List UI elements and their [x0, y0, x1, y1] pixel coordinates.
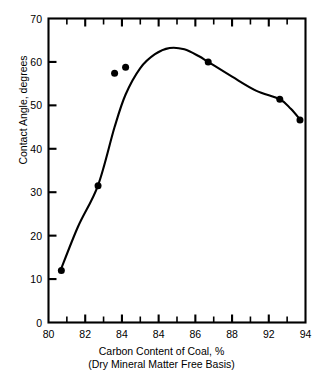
- data-point: [122, 64, 129, 71]
- y-tick-label: 50: [18, 99, 42, 111]
- x-axis-ticks: [67, 19, 287, 323]
- y-tick-label: 10: [18, 273, 42, 285]
- data-point: [111, 70, 118, 77]
- y-tick-label: 20: [18, 230, 42, 242]
- data-point: [296, 117, 303, 124]
- x-tick-label: 84: [116, 328, 128, 340]
- data-curve: [60, 48, 301, 272]
- data-point-markers: [58, 58, 304, 273]
- x-tick-label: 94: [300, 328, 312, 340]
- data-point: [205, 58, 212, 65]
- data-point: [276, 96, 283, 103]
- y-tick-label: 70: [18, 13, 42, 25]
- axis-frame: [49, 19, 306, 323]
- x-tick-label: 88: [226, 328, 238, 340]
- x-tick-label: 82: [79, 328, 91, 340]
- x-tick-label: 80: [43, 328, 55, 340]
- data-point: [58, 267, 65, 274]
- y-axis-ticks: [49, 62, 57, 279]
- x-tick-label: 92: [263, 328, 275, 340]
- chart-plot-area: [0, 0, 323, 379]
- y-tick-label: 40: [18, 143, 42, 155]
- y-tick-label: 60: [18, 56, 42, 68]
- x-tick-label: 86: [190, 328, 202, 340]
- x-axis-title: Carbon Content of Coal, %: [0, 345, 323, 357]
- x-axis-subtitle: (Dry Mineral Matter Free Basis): [0, 358, 323, 370]
- chart-figure: Contact Angle, degrees 8082848486889294 …: [0, 0, 323, 379]
- x-tick-label: 84: [153, 328, 165, 340]
- data-point: [95, 182, 102, 189]
- y-tick-label: 0: [18, 317, 42, 329]
- y-tick-label: 30: [18, 186, 42, 198]
